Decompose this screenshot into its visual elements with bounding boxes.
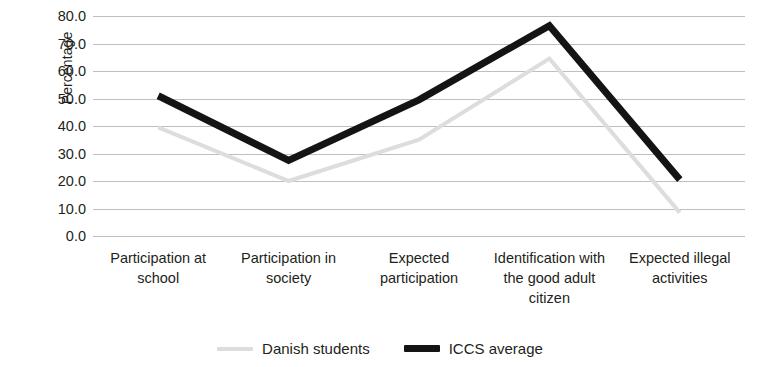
legend-swatch-icon xyxy=(404,345,440,352)
y-axis-tick-label: 50.0 xyxy=(28,92,86,106)
chart-figure: Percentage 80.070.060.050.040.030.020.01… xyxy=(0,0,760,367)
x-axis-line xyxy=(93,236,745,237)
x-axis-tick-label: Participation at school xyxy=(93,248,223,328)
plot-area xyxy=(93,16,745,236)
series-lines xyxy=(93,16,745,236)
x-axis-tick-label: Participation in society xyxy=(223,248,353,328)
y-axis-tick-label: 40.0 xyxy=(28,119,86,133)
x-axis-tick-label: Expected illegal activities xyxy=(615,248,745,328)
legend-label: Danish students xyxy=(262,340,370,357)
chart-legend: Danish studentsICCS average xyxy=(0,340,760,357)
y-axis-tick-label: 0.0 xyxy=(28,229,86,243)
legend-label: ICCS average xyxy=(449,340,543,357)
y-axis-tick-label: 60.0 xyxy=(28,64,86,78)
y-axis-tick-labels: 80.070.060.050.040.030.020.010.00.0 xyxy=(28,0,86,367)
x-axis-tick-labels: Participation at schoolParticipation in … xyxy=(93,248,745,328)
series-line xyxy=(158,26,680,180)
x-axis-tick-label: Identification with the good adult citiz… xyxy=(484,248,614,328)
x-axis-tick-label: Expected participation xyxy=(354,248,484,328)
y-axis-tick-label: 20.0 xyxy=(28,174,86,188)
legend-entry[interactable]: ICCS average xyxy=(404,340,543,357)
y-axis-tick-label: 80.0 xyxy=(28,9,86,23)
legend-entry[interactable]: Danish students xyxy=(217,340,370,357)
y-axis-tick-label: 30.0 xyxy=(28,147,86,161)
legend-swatch-icon xyxy=(217,347,253,351)
y-axis-tick-label: 70.0 xyxy=(28,37,86,51)
y-axis-tick-label: 10.0 xyxy=(28,202,86,216)
